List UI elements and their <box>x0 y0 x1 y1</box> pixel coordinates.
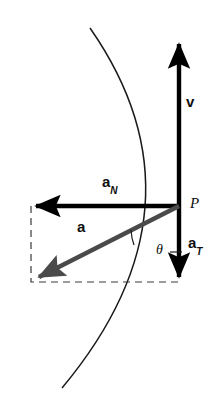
angle-theta-label: θ <box>156 243 163 257</box>
velocity-label: v <box>186 94 194 109</box>
normal-acceleration-label-subscript: N <box>110 185 117 196</box>
physics-vector-diagram <box>0 0 218 397</box>
point-p-label: P <box>190 196 199 211</box>
angle-theta-arc <box>131 230 134 245</box>
tangential-acceleration-label: aT <box>188 235 202 254</box>
figure-root: v aN P a aT θ <box>0 0 218 397</box>
normal-acceleration-label: aN <box>102 174 118 193</box>
tangential-acceleration-label-subscript: T <box>196 246 202 257</box>
resultant-acceleration-label: a <box>77 219 85 234</box>
